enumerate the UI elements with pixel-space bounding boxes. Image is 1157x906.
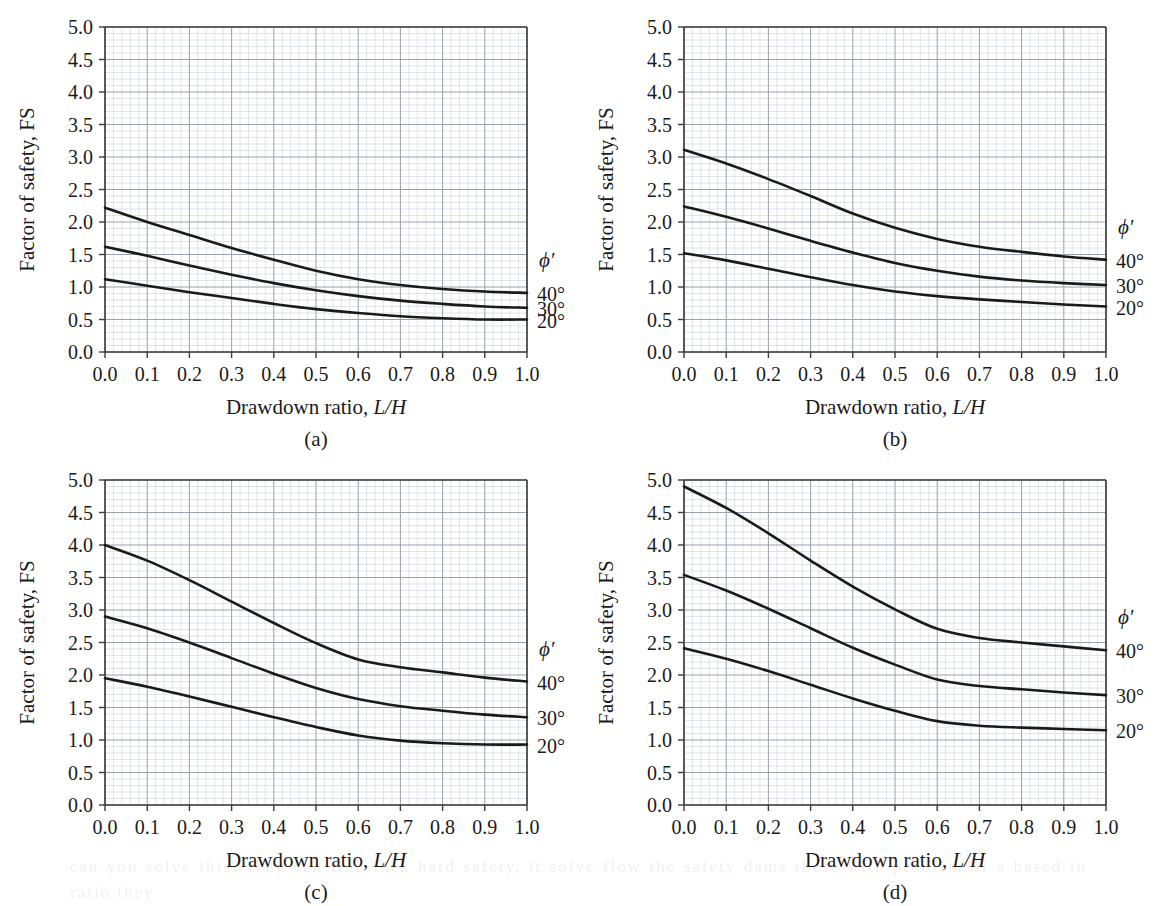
x-tick-label: 0.0 [93,816,118,838]
chart-svg-d: 0.00.51.01.52.02.53.03.54.04.55.00.00.10… [579,453,1157,906]
y-axis-title: Factor of safety, FS [594,560,618,724]
y-tick-label: 1.5 [68,244,93,266]
y-tick-label: 1.5 [68,697,93,719]
y-tick-label: 0.5 [647,762,672,784]
panel-caption: (d) [883,880,908,904]
legend-entry-20°: 20° [537,310,565,332]
x-tick-label: 0.9 [1051,363,1076,385]
x-tick-label: 0.9 [472,363,497,385]
x-tick-label: 1.0 [1094,816,1119,838]
legend-entry-40°: 40° [1116,250,1144,272]
y-tick-label: 3.5 [68,114,93,136]
y-tick-label: 4.0 [647,81,672,103]
x-tick-label: 1.0 [515,363,540,385]
y-tick-label: 4.0 [647,534,672,556]
y-tick-label: 2.0 [68,664,93,686]
y-tick-label: 2.5 [68,179,93,201]
x-tick-label: 0.3 [219,816,244,838]
x-tick-label: 0.8 [1009,363,1034,385]
legend: ϕ′40°30°20° [537,637,565,757]
y-tick-labels: 0.00.51.01.52.02.53.03.54.04.55.0 [647,16,672,363]
y-tick-label: 0.0 [68,794,93,816]
x-tick-label: 0.7 [967,816,992,838]
legend-entry-40°: 40° [1116,640,1144,662]
x-tick-label: 0.2 [177,363,202,385]
x-tick-label: 0.5 [304,363,329,385]
x-tick-label: 0.6 [925,363,950,385]
panel-caption: (b) [883,427,908,451]
y-tick-label: 2.0 [647,211,672,233]
y-tick-label: 0.0 [647,794,672,816]
x-tick-label: 0.2 [177,816,202,838]
chart-svg-c: 0.00.51.01.52.02.53.03.54.04.55.00.00.10… [0,453,578,906]
legend-entry-20°: 20° [1116,720,1144,742]
y-tick-label: 1.5 [647,244,672,266]
y-tick-label: 0.0 [647,341,672,363]
x-axis-title: Drawdown ratio, L/H [805,848,987,872]
y-tick-label: 4.0 [68,81,93,103]
x-tick-label: 0.8 [430,816,455,838]
x-tick-label: 0.7 [388,816,413,838]
x-axis-title: Drawdown ratio, L/H [226,848,408,872]
legend-entry-20°: 20° [537,735,565,757]
y-tick-labels: 0.00.51.01.52.02.53.03.54.04.55.0 [68,469,93,816]
x-tick-label: 0.0 [93,363,118,385]
y-tick-label: 3.0 [68,146,93,168]
x-tick-labels: 0.00.10.20.30.40.50.60.70.80.91.0 [93,363,540,385]
y-tick-label: 2.5 [647,632,672,654]
chart-panel-a: 0.00.51.01.52.02.53.03.54.04.55.00.00.10… [0,0,578,453]
y-tick-label: 0.5 [68,309,93,331]
figure-root: 0.00.51.01.52.02.53.03.54.04.55.00.00.10… [0,0,1157,906]
major-gridlines [684,480,1106,805]
x-tick-label: 0.4 [261,363,286,385]
x-tick-label: 0.5 [883,363,908,385]
y-tick-label: 3.0 [68,599,93,621]
x-tick-label: 0.4 [261,816,286,838]
y-tick-label: 2.0 [647,664,672,686]
x-tick-label: 0.8 [430,363,455,385]
x-tick-label: 1.0 [515,816,540,838]
y-tick-label: 2.5 [647,179,672,201]
y-tick-label: 3.0 [647,599,672,621]
y-axis-title: Factor of safety, FS [594,107,618,271]
x-tick-label: 0.2 [756,363,781,385]
legend-entry-20°: 20° [1116,297,1144,319]
legend-entry-30°: 30° [1116,275,1144,297]
chart-panel-d: 0.00.51.01.52.02.53.03.54.04.55.00.00.10… [579,453,1157,906]
x-tick-label: 0.3 [219,363,244,385]
y-tick-label: 4.0 [68,534,93,556]
y-tick-label: 1.0 [647,276,672,298]
x-tick-label: 0.9 [1051,816,1076,838]
x-tick-label: 0.1 [135,363,160,385]
y-tick-label: 1.5 [647,697,672,719]
y-tick-labels: 0.00.51.01.52.02.53.03.54.04.55.0 [68,16,93,363]
x-axis-title: Drawdown ratio, L/H [226,395,408,419]
axis-ticks [99,480,527,811]
axis-ticks [678,27,1106,358]
x-tick-label: 0.2 [756,816,781,838]
legend-header: ϕ′ [539,637,555,661]
x-tick-labels: 0.00.10.20.30.40.50.60.70.80.91.0 [93,816,540,838]
x-tick-label: 0.5 [883,816,908,838]
y-tick-label: 1.0 [68,276,93,298]
x-tick-label: 0.3 [798,363,823,385]
y-tick-label: 5.0 [647,469,672,491]
y-tick-label: 0.5 [647,309,672,331]
legend-entry-30°: 30° [537,707,565,729]
y-tick-label: 3.0 [647,146,672,168]
x-tick-labels: 0.00.10.20.30.40.50.60.70.80.91.0 [672,363,1119,385]
y-tick-label: 1.0 [647,729,672,751]
legend: ϕ′40°30°20° [537,248,565,332]
x-tick-label: 0.1 [714,363,739,385]
y-axis-title: Factor of safety, FS [15,560,39,724]
legend-header: ϕ′ [1118,605,1134,629]
x-tick-label: 0.6 [346,816,371,838]
x-tick-label: 0.4 [840,816,865,838]
chart-svg-b: 0.00.51.01.52.02.53.03.54.04.55.00.00.10… [579,0,1157,453]
y-tick-label: 3.5 [647,114,672,136]
y-tick-label: 2.0 [68,211,93,233]
y-tick-label: 0.0 [68,341,93,363]
legend: ϕ′40°30°20° [1116,215,1144,319]
y-tick-label: 4.5 [647,502,672,524]
legend-header: ϕ′ [539,248,555,272]
